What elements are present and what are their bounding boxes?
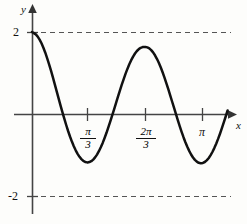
x-axis-label: x — [236, 120, 241, 131]
y-axis-label: y — [21, 4, 26, 15]
x-tick-label-pi-over-3: π 3 — [80, 126, 96, 150]
fraction-numerator: 2π — [136, 126, 156, 137]
x-tick-label-pi: π — [199, 126, 205, 138]
fraction-denominator: 3 — [80, 139, 96, 150]
y-tick-label-negative-2: -2 — [8, 190, 18, 202]
fraction-numerator: π — [80, 126, 96, 137]
graph-canvas — [0, 0, 247, 224]
fraction-denominator: 3 — [136, 139, 156, 150]
x-axis-arrowhead — [228, 110, 237, 119]
cosine-curve — [32, 32, 228, 163]
y-tick-label-2: 2 — [13, 26, 19, 38]
y-axis-arrowhead — [28, 4, 37, 13]
graph-figure: y x 2 -2 π 3 2π 3 π — [0, 0, 247, 224]
x-tick-label-2pi-over-3: 2π 3 — [136, 126, 156, 150]
